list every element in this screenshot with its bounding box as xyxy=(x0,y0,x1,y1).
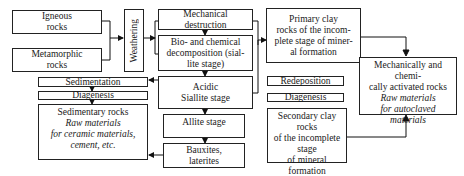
node-label: of mineral formation xyxy=(268,155,346,176)
node-label: Redeposition xyxy=(280,76,330,87)
node-label: Weathering xyxy=(129,19,140,63)
node-label: rocks xyxy=(47,60,68,71)
node-label: Bauxites, xyxy=(186,145,222,156)
metamorphic-rocks-node: Metamorphic rocks xyxy=(12,48,102,72)
diagenesis-left-node: Diagenesis xyxy=(38,91,148,100)
node-label: decomposition (sial- xyxy=(167,48,245,59)
node-label: Bio- and chemical xyxy=(171,37,241,48)
node-label: of the incomplete xyxy=(274,133,340,144)
node-label: laterites xyxy=(189,156,219,167)
node-label: Raw materials xyxy=(65,118,120,129)
node-label: Igneous xyxy=(42,11,72,22)
node-label: Allite stage xyxy=(182,117,226,128)
node-label: cally activated rocks xyxy=(369,82,447,93)
activated-rocks-node: Mechanically and chemi- cally activated … xyxy=(359,57,457,115)
node-label: Diagenesis xyxy=(285,92,327,103)
sedimentation-node: Sedimentation xyxy=(38,77,148,87)
node-label: rocks of the incom- xyxy=(276,25,350,36)
igneous-rocks-node: Igneous rocks xyxy=(12,10,102,34)
secondary-clay-rocks-node: Secondary clay rocks of the incomplete s… xyxy=(267,108,347,163)
node-label: lite stage) xyxy=(187,59,224,70)
mechanical-destruction-node: Mechanical destruction xyxy=(158,9,253,30)
node-label: Raw materials xyxy=(380,93,435,104)
node-label: Sedimentation xyxy=(66,77,121,88)
node-label: for autoclaved xyxy=(380,104,435,115)
primary-clay-rocks-node: Primary clay rocks of the incom- plete s… xyxy=(266,8,361,63)
bauxites-laterites-node: Bauxites, laterites xyxy=(163,143,245,168)
node-label: Mechanically and chemi- xyxy=(360,60,456,82)
node-label: cement, etc. xyxy=(70,140,115,151)
weathering-node: Weathering xyxy=(124,9,144,72)
node-label: Metamorphic xyxy=(31,49,82,60)
node-label: plete stage of miner- xyxy=(274,36,352,47)
node-label: al formation xyxy=(290,47,337,58)
node-label: Siallite stage xyxy=(181,93,230,104)
node-label: destruction xyxy=(184,20,226,31)
acidic-siallite-stage-node: Acidic Siallite stage xyxy=(158,76,253,109)
node-label: Primary clay xyxy=(289,14,338,25)
sedimentary-rocks-node: Sedimentary rocks Raw materials for cera… xyxy=(38,104,148,160)
node-label: Diagenesis xyxy=(72,90,114,101)
node-label: Acidic xyxy=(193,82,218,93)
allite-stage-node: Allite stage xyxy=(163,114,245,138)
node-label: stage xyxy=(297,144,317,155)
node-label: materials xyxy=(390,115,426,126)
node-label: Mechanical xyxy=(183,9,227,20)
node-title: Sedimentary rocks xyxy=(58,107,129,118)
node-label: for ceramic materials, xyxy=(51,129,136,140)
node-label: rocks xyxy=(47,22,68,33)
redeposition-node: Redeposition xyxy=(267,76,344,86)
diagenesis-right-node: Diagenesis xyxy=(267,93,344,102)
bio-chemical-decomposition-node: Bio- and chemical decomposition (sial- l… xyxy=(158,35,253,71)
node-label: Secondary clay rocks xyxy=(268,111,346,133)
